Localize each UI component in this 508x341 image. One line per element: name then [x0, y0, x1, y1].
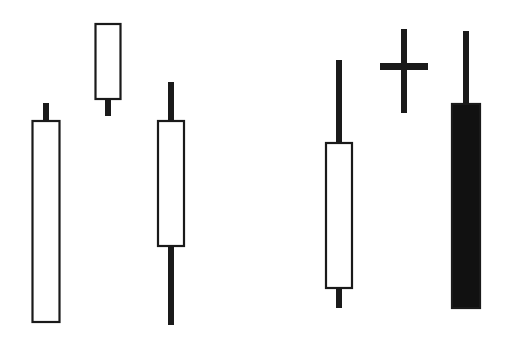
candle-bullish [326, 60, 352, 308]
upper-wick [336, 60, 342, 142]
upper-wick [43, 103, 49, 120]
bullish-body [33, 121, 60, 322]
candle-doji [380, 29, 428, 113]
upper-wick [168, 82, 174, 120]
upper-wick [463, 31, 469, 103]
bearish-body [452, 104, 480, 308]
candle-bullish [96, 24, 121, 116]
candlestick-plot-area [0, 0, 508, 341]
doji-bar [380, 63, 428, 70]
bullish-body [158, 121, 184, 246]
candle-bullish [33, 103, 60, 322]
doji-wick [401, 29, 407, 113]
lower-wick [336, 289, 342, 308]
candle-bearish [452, 31, 480, 308]
lower-wick [168, 247, 174, 325]
bullish-body [326, 143, 352, 288]
candlestick-chart [0, 0, 508, 341]
lower-wick [105, 100, 111, 116]
bullish-body [96, 24, 121, 99]
candle-bullish [158, 82, 184, 325]
